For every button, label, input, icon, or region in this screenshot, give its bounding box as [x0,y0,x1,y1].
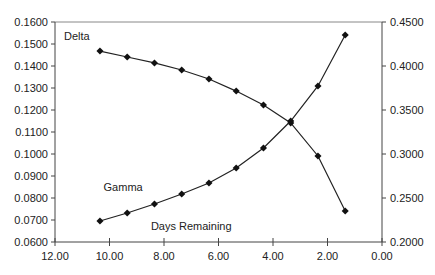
left-y-tick-label: 0.1100 [15,126,48,138]
x-tick-label: 2.00 [317,250,338,262]
labels-layer: DeltaGammaDays Remaining [64,30,232,231]
left-y-tick-label: 0.1300 [14,82,48,94]
delta-marker [178,66,185,73]
delta-marker [260,101,267,108]
right-y-tick-label: 0.2500 [390,192,424,204]
delta-marker [124,53,131,60]
x-tick-label: 10.00 [96,250,124,262]
series-layer [96,31,348,224]
gamma-marker [178,191,185,198]
x-tick-label: 12.00 [41,250,69,262]
gamma-label: Gamma [104,181,144,193]
delta-marker [96,48,103,55]
delta-marker [151,59,158,66]
left-y-tick-label: 0.1200 [14,104,48,116]
x-tick-label: 8.00 [153,250,174,262]
right-y-tick-label: 0.3500 [390,104,424,116]
gamma-line [100,35,345,221]
x-tick-label: 4.00 [262,250,283,262]
right-y-tick-label: 0.2000 [390,236,424,248]
gamma-marker [124,209,131,216]
left-y-tick-label: 0.1600 [14,16,48,28]
delta-label: Delta [64,30,91,42]
x-tick-label: 6.00 [208,250,229,262]
right-y-tick-label: 0.4000 [390,60,424,72]
chart-canvas: 0.06000.07000.08000.09000.10000.11000.12… [0,0,435,275]
left-y-tick-label: 0.0900 [14,170,48,182]
delta-gamma-chart: 0.06000.07000.08000.09000.10000.11000.12… [0,0,435,275]
delta-marker [205,75,212,82]
left-y-tick-label: 0.0600 [14,236,48,248]
gamma-marker [151,200,158,207]
gamma-marker [342,31,349,38]
left-y-tick-label: 0.0700 [14,214,48,226]
right-y-tick-label: 0.4500 [390,16,424,28]
right-y-tick-label: 0.3000 [390,148,424,160]
delta-marker [233,88,240,95]
left-y-tick-label: 0.1500 [14,38,48,50]
left-y-tick-label: 0.1400 [14,60,48,72]
x-tick-label: 0.00 [371,250,392,262]
left-y-tick-label: 0.0800 [14,192,48,204]
left-y-tick-label: 0.1000 [14,148,48,160]
x-axis-title: Days Remaining [151,220,232,232]
gamma-marker [205,180,212,187]
gamma-marker [96,217,103,224]
delta-marker [342,207,349,214]
